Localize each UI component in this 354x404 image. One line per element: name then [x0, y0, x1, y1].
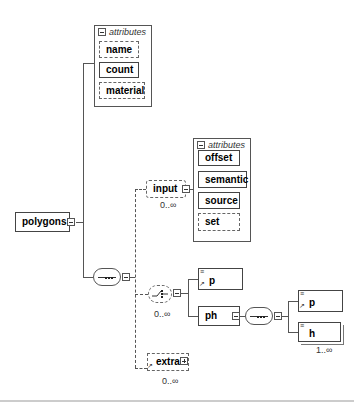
- element-h[interactable]: h: [298, 322, 341, 342]
- connector: [288, 332, 298, 333]
- collapse-input-icon[interactable]: [182, 185, 190, 193]
- attribute-label: set: [205, 217, 219, 227]
- connector: [281, 316, 288, 317]
- reference-icon: ≡: [300, 290, 304, 297]
- element-label: polygons: [22, 217, 66, 227]
- cardinality-label: 1..∞: [316, 345, 332, 355]
- connector: [135, 294, 148, 295]
- element-input[interactable]: input: [146, 180, 186, 198]
- attribute-offset[interactable]: offset: [198, 150, 240, 166]
- reference-arrow-icon: ↗: [299, 302, 305, 310]
- connector: [288, 301, 289, 332]
- connector: [188, 316, 198, 317]
- connector: [288, 301, 298, 302]
- cardinality-label: 0..∞: [154, 309, 170, 319]
- cardinality-label: 0..∞: [160, 200, 176, 210]
- connector: [83, 63, 84, 277]
- choice-compositor[interactable]: [148, 285, 172, 303]
- connector: [83, 63, 94, 64]
- element-label: input: [153, 184, 177, 194]
- attributes-header: attributes: [109, 27, 146, 37]
- reference-arrow-icon: ↗: [147, 362, 153, 370]
- attribute-label: semantic: [205, 175, 248, 185]
- attribute-material[interactable]: material: [99, 82, 145, 99]
- reference-icon: ≡: [200, 268, 204, 275]
- collapse-polygons-icon[interactable]: [67, 218, 75, 226]
- collapse-ph-icon[interactable]: [232, 312, 240, 320]
- connector: [76, 222, 83, 223]
- element-polygons[interactable]: polygons: [15, 212, 70, 232]
- connector: [188, 279, 198, 280]
- connector: [188, 279, 189, 316]
- collapse-sequence-icon[interactable]: [274, 312, 282, 320]
- element-label: extra: [156, 357, 180, 367]
- sequence-icon: [250, 316, 268, 317]
- element-label: p: [209, 276, 215, 286]
- sequence-icon: [98, 277, 116, 278]
- sequence-compositor[interactable]: [245, 307, 273, 325]
- reference-icon: ≡: [300, 322, 304, 329]
- reference-arrow-icon: ↗: [199, 280, 205, 288]
- connector: [181, 293, 188, 294]
- element-label: h: [309, 329, 315, 339]
- attribute-label: count: [106, 65, 133, 75]
- sequence-compositor[interactable]: [93, 268, 121, 286]
- separator: [0, 400, 354, 402]
- connector: [135, 189, 146, 190]
- attribute-count[interactable]: count: [99, 62, 139, 78]
- connector: [135, 189, 136, 368]
- connector: [135, 368, 147, 369]
- collapse-sequence-icon[interactable]: [122, 273, 130, 281]
- collapse-attributes-icon[interactable]: [98, 28, 106, 36]
- connector: [83, 277, 93, 278]
- collapse-choice-icon[interactable]: [173, 289, 181, 297]
- attribute-label: offset: [205, 153, 232, 163]
- attribute-set[interactable]: set: [198, 213, 240, 231]
- attributes-header: attributes: [208, 140, 245, 150]
- attribute-semantic[interactable]: semantic: [198, 171, 247, 188]
- choice-icon: [149, 286, 171, 302]
- expand-extra-icon[interactable]: [180, 357, 188, 365]
- attribute-label: source: [205, 196, 238, 206]
- attribute-name[interactable]: name: [99, 41, 139, 58]
- element-label: p: [309, 298, 315, 308]
- element-label: ph: [205, 311, 217, 321]
- cardinality-label: 0..∞: [162, 376, 178, 386]
- attribute-source[interactable]: source: [198, 192, 240, 209]
- attribute-label: material: [106, 86, 144, 96]
- collapse-attributes-icon[interactable]: [197, 141, 205, 149]
- attribute-label: name: [106, 45, 132, 55]
